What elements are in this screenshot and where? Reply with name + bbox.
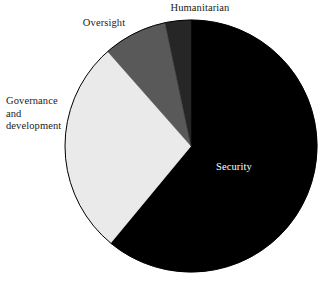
pie-chart-canvas [0,0,324,281]
slice-label-oversight: Oversight [70,17,138,30]
pie-slice-group [65,20,317,272]
slice-label-humanitarian: Humanitarian [152,2,248,15]
slice-label-security: Security [216,161,296,174]
pie-chart: Humanitarian Oversight Governance and de… [0,0,324,281]
slice-label-governance-and-development: Governance and development [6,95,74,133]
